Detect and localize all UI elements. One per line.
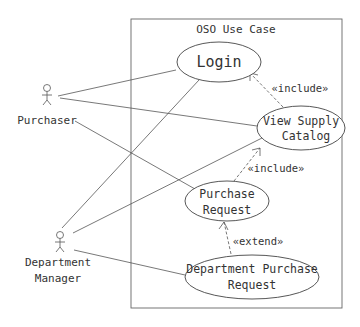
include-label-2: «include» xyxy=(248,162,305,174)
extend-arrow-line xyxy=(224,222,231,254)
assoc-manager-login xyxy=(62,80,199,228)
include-request-catalog: «include» xyxy=(234,148,304,181)
assoc-purchaser-view-catalog xyxy=(60,98,257,126)
use-case-label: Login xyxy=(196,53,241,71)
use-case-label-line2: Catalog xyxy=(282,129,330,143)
actor-label-line1: Department xyxy=(25,256,91,269)
use-case-login: Login xyxy=(177,42,261,82)
actor-label: Purchaser xyxy=(17,114,77,127)
include-label-1: «include» xyxy=(272,82,329,94)
extend-dept-request: «extend» xyxy=(219,222,283,254)
use-case-label-line1: Purchase xyxy=(199,187,254,201)
extend-arrowhead-icon xyxy=(219,222,228,230)
use-case-label-line2: Request xyxy=(203,203,251,217)
include-catalog-login: «include» xyxy=(250,73,328,107)
use-case-view-supply-catalog: View Supply Catalog xyxy=(257,106,345,150)
use-case-diagram: OSO Use Case «include» «include» «extend… xyxy=(0,0,360,327)
use-case-purchase-request: Purchase Request xyxy=(185,181,269,221)
use-case-ellipse xyxy=(257,106,345,150)
system-title: OSO Use Case xyxy=(196,23,275,36)
actor-label-line2: Manager xyxy=(35,272,82,285)
use-case-label-line1: Department Purchase xyxy=(186,262,318,276)
actor-department-manager: Department Manager xyxy=(25,232,91,286)
actor-purchaser: Purchaser xyxy=(17,85,77,128)
use-case-dept-purchase-request: Department Purchase Request xyxy=(185,255,319,299)
stick-figure-icon xyxy=(42,85,52,106)
assoc-purchaser-purchase-request xyxy=(75,121,195,189)
use-case-label-line1: View Supply xyxy=(263,114,339,128)
extend-label: «extend» xyxy=(233,235,284,247)
stick-figure-icon xyxy=(55,232,65,253)
assoc-purchaser-login xyxy=(58,70,176,96)
purchaser-associations xyxy=(58,70,257,189)
use-case-label-line2: Request xyxy=(228,278,276,292)
